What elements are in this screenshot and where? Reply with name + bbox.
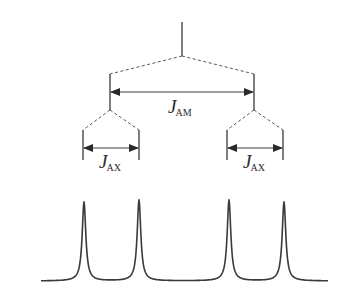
level2-left-dashed-b	[110, 110, 139, 130]
splitting-tree-diagram	[0, 0, 350, 299]
spectrum-curve	[41, 200, 328, 281]
jam-label: JAM	[168, 97, 192, 116]
jax-label-right: JAX	[243, 152, 265, 171]
level2-left-dashed-a	[83, 110, 110, 130]
jax-right-subscript: AX	[250, 162, 264, 173]
level1-dashed-left	[110, 56, 182, 74]
jax-left-subscript: AX	[106, 162, 120, 173]
jam-subscript: AM	[175, 107, 191, 118]
level2-right-dashed-b	[254, 110, 283, 130]
level1-dashed-right	[182, 56, 254, 74]
level2-right-dashed-a	[227, 110, 254, 130]
jax-label-left: JAX	[99, 152, 121, 171]
